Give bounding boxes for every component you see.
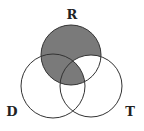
label-t: T xyxy=(125,104,135,119)
venn-diagram: R D T xyxy=(0,0,144,131)
label-d: D xyxy=(6,104,17,119)
label-r: R xyxy=(67,7,78,22)
